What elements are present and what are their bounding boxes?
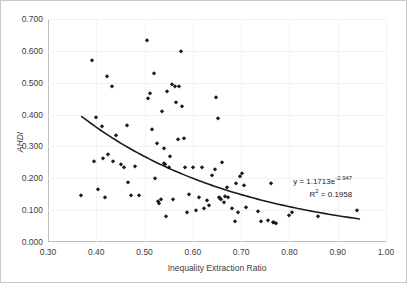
- trendline: [48, 19, 386, 242]
- x-tick-label: 0.80: [281, 248, 298, 257]
- x-tick-label: 0.70: [233, 248, 250, 257]
- equation-exponent: -2.947: [335, 175, 352, 181]
- trendline-annotation: y = 1.1713e-2.947 R2 = 0.1958: [257, 174, 352, 201]
- x-tick-label: 0.50: [136, 248, 153, 257]
- y-tick-label: 0.100: [22, 206, 43, 215]
- trendline-path: [82, 117, 360, 219]
- y-tick-label: 0.000: [22, 238, 43, 247]
- x-tick-label: 0.90: [329, 248, 346, 257]
- y-tick-label: 0.700: [22, 15, 43, 24]
- x-tick-label: 1.00: [378, 248, 395, 257]
- plot-area: 0.0000.1000.2000.3000.4000.5000.6000.700…: [48, 19, 386, 242]
- y-tick-label: 0.400: [22, 110, 43, 119]
- x-axis-title: Inequality Extraction Ratio: [48, 263, 386, 273]
- x-tick-label: 0.40: [88, 248, 105, 257]
- equation-prefix: y = 1.1713e: [293, 176, 335, 185]
- equation-text: y = 1.1713e-2.947: [257, 174, 352, 187]
- y-axis-title: AHDI: [15, 131, 25, 151]
- y-tick-label: 0.500: [22, 78, 43, 87]
- r-squared-text: R2 = 0.1958: [257, 187, 352, 200]
- x-tick-label: 0.30: [40, 248, 57, 257]
- chart-figure: 0.0000.1000.2000.3000.4000.5000.6000.700…: [0, 0, 407, 283]
- y-tick-label: 0.600: [22, 47, 43, 56]
- y-tick-label: 0.200: [22, 174, 43, 183]
- x-tick-label: 0.60: [185, 248, 202, 257]
- r-squared-value: = 0.1958: [319, 189, 353, 198]
- gridline-vertical: [386, 19, 387, 242]
